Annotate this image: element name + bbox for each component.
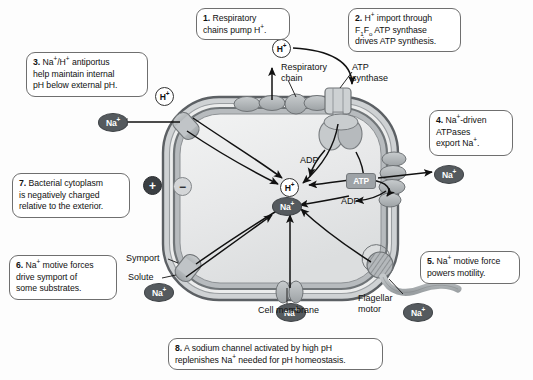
hplus-ion-cytoplasm: H+ [280, 178, 299, 197]
callout-8-number: 8. [175, 343, 182, 353]
charge-plus-exterior: + [143, 176, 162, 195]
na-ion-external-symport: Na+ [144, 283, 174, 302]
label-cell-membrane: Cell membrane [258, 305, 319, 316]
callout-3-text: Na+/H+ antiportushelp maintain internalp… [33, 57, 117, 90]
callout-6: 6. Na+ motive forcesdrive symport ofsome… [9, 255, 117, 300]
callout-2-text: H+ import throughF1Fo ATP synthasedrives… [355, 13, 436, 46]
callout-2-number: 2. [355, 13, 362, 23]
ion-label: H+ [285, 183, 295, 193]
callout-2: 2. H+ import throughF1Fo ATP synthasedri… [348, 8, 461, 52]
label-adp-left: ADP [300, 155, 319, 166]
label-adp-right: ADP [341, 196, 360, 207]
callout-5-text: Na+ motive forcepowers motility. [427, 256, 500, 278]
callout-8: 8. A sodium channel activated by high pH… [168, 338, 383, 370]
callout-5: 5. Na+ motive forcepowers motility. [420, 251, 520, 284]
label-atp-synthase: ATPsynthase [352, 62, 388, 84]
label-flagellar-motor: Flagellarmotor [358, 293, 393, 315]
ion-label: Na+ [152, 288, 166, 298]
callout-1: 1. Respiratorychains pump H+. [196, 8, 290, 40]
callout-6-number: 6. [16, 260, 23, 270]
atp-label: ATP [353, 176, 369, 186]
charge-minus-cytoplasm: − [173, 177, 192, 196]
callout-3: 3. Na+/H+ antiportushelp maintain intern… [26, 52, 148, 97]
label-solute: Solute [128, 272, 154, 283]
ion-label: Na+ [106, 118, 120, 128]
ion-label: Na+ [280, 202, 294, 212]
label-respiratory-chain: Respiratorychain [281, 62, 327, 84]
callout-4-number: 4. [436, 115, 443, 125]
plus-symbol: + [149, 180, 156, 192]
minus-symbol: − [179, 181, 186, 193]
label-symport: Symport [126, 253, 160, 264]
leader-atp-synthase [340, 72, 352, 88]
na-ion-external-right: Na+ [434, 165, 464, 184]
callout-6-text: Na+ motive forcesdrive symport ofsome su… [16, 260, 94, 293]
ion-label: H+ [160, 92, 170, 102]
callout-7: 7. Bacterial cytoplasmis negatively char… [12, 173, 130, 218]
na-ion-cytoplasm: Na+ [272, 197, 302, 216]
callout-8-text: A sodium channel activated by high pHrep… [175, 343, 346, 365]
callout-3-number: 3. [33, 57, 40, 67]
na-ion-external-left: Na+ [98, 113, 128, 132]
callout-7-number: 7. [19, 178, 26, 188]
ion-label: H+ [277, 44, 287, 54]
callout-5-number: 5. [427, 256, 434, 266]
callout-1-text: Respiratorychains pump H+. [203, 13, 266, 35]
hplus-ion-external-left: H+ [155, 87, 174, 106]
hplus-ion-external-top: H+ [272, 39, 291, 58]
callout-1-number: 1. [203, 13, 210, 23]
callout-4-text: Na+-drivenATPasesexport Na+. [436, 115, 486, 148]
atp-badge: ATP [346, 173, 376, 189]
figure-root: Overthrust Bacterial [0, 0, 533, 380]
callout-7-text: Bacterial cytoplasmis negatively charged… [19, 178, 103, 211]
na-ion-external-flagellum: Na+ [403, 303, 433, 322]
ion-label: Na+ [411, 308, 425, 318]
callout-4: 4. Na+-drivenATPasesexport Na+. [429, 110, 513, 156]
ion-label: Na+ [442, 170, 456, 180]
